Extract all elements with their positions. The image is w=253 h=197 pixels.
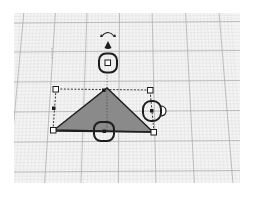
grid-line-minor (14, 12, 240, 13)
rotate-handle-right-dot (150, 109, 154, 113)
rotate-handle-front-dot (103, 130, 107, 134)
top-handle[interactable] (102, 89, 106, 93)
corner-handle-top-right[interactable] (148, 88, 154, 94)
corner-handle-bottom-left[interactable] (51, 128, 57, 134)
corner-handle-bottom-right[interactable] (151, 130, 157, 136)
side-handle-left[interactable] (52, 107, 56, 111)
height-handle[interactable] (105, 60, 111, 66)
corner-handle-top-left[interactable] (53, 87, 59, 93)
workplane-canvas[interactable] (0, 0, 253, 197)
